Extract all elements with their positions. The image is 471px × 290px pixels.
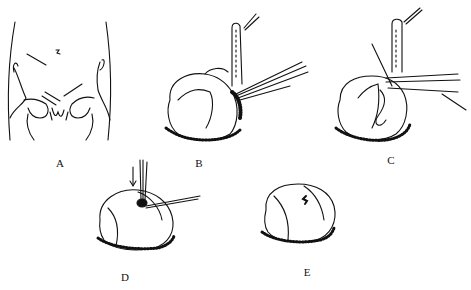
panel-b-drawing [166, 14, 308, 140]
panel-d-drawing [98, 160, 200, 250]
panel-label-b: B [195, 157, 202, 169]
surgical-illustration-figure: A B C D E [0, 0, 471, 290]
panel-e-drawing [262, 184, 335, 242]
panel-c-drawing [336, 8, 466, 140]
illustration-drawing [0, 0, 471, 290]
panel-a-drawing [8, 22, 110, 140]
panel-label-d: D [121, 271, 129, 283]
panel-label-e: E [304, 266, 311, 278]
panel-label-a: A [56, 157, 64, 169]
panel-label-c: C [387, 154, 394, 166]
